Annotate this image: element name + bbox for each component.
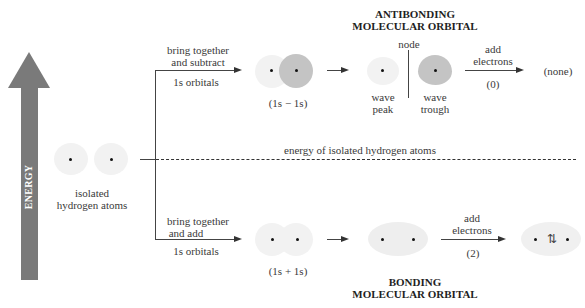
add-label-1: bring together [158,215,238,227]
arrow-icon [234,67,242,73]
node-label: node [390,38,428,50]
isolated-label-2: hydrogen atoms [42,199,142,211]
reference-energy-label: energy of isolated hydrogen atoms [255,144,465,156]
nucleus-icon [412,238,415,241]
electron-pair-icon: ⇅ [542,233,562,245]
nucleus-icon [381,238,384,241]
node-line [408,50,409,98]
subtract-combo-label: (1s − 1s) [258,97,318,109]
nucleus-icon [381,69,384,72]
nucleus-icon [434,69,437,72]
nucleus-icon [271,238,274,241]
nucleus-icon [296,238,299,241]
isolated-label-1: isolated [52,187,132,199]
bonding-title-1: BONDING [353,276,477,288]
arrow-icon [341,236,349,242]
wave-trough-label-1: wave [413,91,457,103]
add-electrons-label-2: electrons [465,55,521,67]
antibonding-electron-count: (0) [478,78,508,90]
arrow-icon [234,236,242,242]
add-label-2: and add [158,227,214,239]
nucleus-icon [295,69,298,72]
nucleus-icon [110,158,113,161]
subtract-sub-label: 1s orbitals [160,76,232,88]
nucleus-icon [270,69,273,72]
bonding-title-2: MOLECULAR ORBITAL [343,288,487,300]
bonding-add-electrons-2: electrons [444,224,500,236]
antibonding-title-2: MOLECULAR ORBITAL [350,20,480,32]
nucleus-icon [69,158,72,161]
wave-trough-label-2: trough [413,103,457,115]
bonding-add-electrons-1: add [444,212,500,224]
antibonding-result: (none) [536,65,580,77]
connector-line [140,159,156,160]
arrow-icon [341,67,349,73]
wave-peak-label-2: peak [365,103,401,115]
bonding-electron-count: (2) [458,247,488,259]
nucleus-icon [566,238,569,241]
nucleus-icon [534,238,537,241]
subtract-label-2: and subtract [158,56,238,68]
energy-label: ENERGY [23,155,37,219]
add-sub-label: 1s orbitals [160,245,232,257]
add-electrons-label-1: add [465,43,521,55]
reference-energy-line [156,159,576,160]
add-combo-label: (1s + 1s) [258,265,318,277]
branch-line [155,70,156,239]
arrow-icon [498,236,506,242]
subtract-label-1: bring together [158,44,238,56]
wave-peak-label-1: wave [365,91,401,103]
antibonding-title-1: ANTIBONDING [350,8,480,20]
arrow-icon [516,67,524,73]
